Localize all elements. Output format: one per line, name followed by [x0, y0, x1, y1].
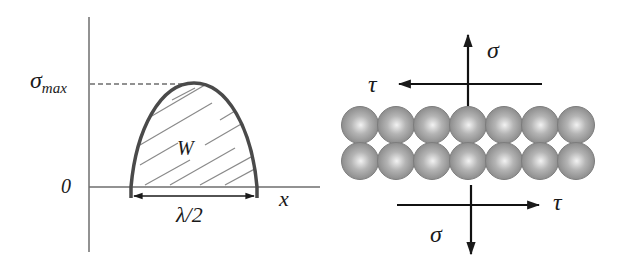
atom	[414, 143, 451, 180]
atom	[450, 143, 487, 180]
area-hatching	[140, 82, 262, 185]
atom	[486, 143, 523, 180]
top-sigma-label: σ	[487, 37, 500, 63]
atom	[342, 107, 379, 144]
half-wavelength-label: λ/2	[175, 202, 203, 227]
atom	[378, 143, 415, 180]
atom	[450, 107, 487, 144]
sigma-max-label: σmax	[30, 67, 67, 96]
atom	[378, 107, 415, 144]
zero-label: 0	[61, 175, 71, 197]
bottom-tau-label: τ	[553, 189, 563, 215]
atom	[414, 107, 451, 144]
atom	[342, 143, 379, 180]
top-tau-label: τ	[368, 71, 378, 97]
atom	[558, 143, 595, 180]
atomic-layer-diagram: σ τ τ σ	[342, 35, 595, 254]
stress-curve	[131, 83, 257, 198]
bottom-sigma-label: σ	[430, 221, 443, 247]
atom	[558, 107, 595, 144]
atom-row-top	[342, 107, 595, 144]
atom-row-bottom	[342, 143, 595, 180]
atom	[522, 143, 559, 180]
atom	[486, 107, 523, 144]
atom	[522, 107, 559, 144]
diagram-canvas: σmax 0 W λ/2 x	[0, 0, 625, 270]
stress-curve-plot: σmax 0 W λ/2 x	[30, 17, 320, 252]
work-area-label: W	[177, 137, 196, 159]
x-axis-label: x	[278, 186, 289, 211]
